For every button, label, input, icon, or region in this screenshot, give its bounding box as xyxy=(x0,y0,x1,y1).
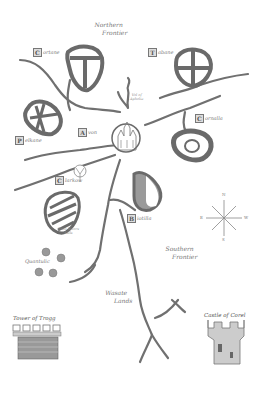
shield-cortane xyxy=(67,47,102,91)
river-delta-1 xyxy=(140,335,152,362)
river-main-south xyxy=(85,160,120,272)
shield-pelkane xyxy=(25,102,61,135)
tower-of-trogg xyxy=(13,325,61,359)
label-castle-of-corel: Castle of Corel xyxy=(204,313,246,319)
initial-cortane: C xyxy=(33,48,42,57)
initial-avon: A xyxy=(78,128,87,137)
initial-clarkow: C xyxy=(55,176,64,185)
river-delta-2 xyxy=(152,335,168,358)
castle-of-corel xyxy=(208,320,244,364)
label-clarkow: C larkow xyxy=(55,176,82,185)
label-tower-of-trogg: Tower of Trogg xyxy=(13,316,56,322)
label-twin-rivers-falls: Twin Rivers Falls xyxy=(58,228,79,235)
label-cortane: C ortane xyxy=(33,48,60,57)
shield-tabane xyxy=(176,50,212,86)
initial-tabane: T xyxy=(148,48,157,57)
shield-cornalla xyxy=(174,131,211,160)
castle-medallion xyxy=(112,122,140,152)
compass-n: N xyxy=(222,193,226,197)
river-south-branch xyxy=(110,200,135,210)
initial-biotilla: B xyxy=(127,214,136,223)
label-southern-frontier: Southern Frontier xyxy=(162,246,197,260)
river-south-main2 xyxy=(120,210,152,335)
initial-cornalla: C xyxy=(195,114,204,123)
label-cornalla: C ornalla xyxy=(195,114,223,123)
compass-w: W xyxy=(244,216,248,220)
label-quantulic: Quantulic xyxy=(25,259,50,264)
label-northern-frontier: Northern Frontier xyxy=(90,22,127,36)
compass-rose xyxy=(206,200,242,236)
fantasy-map xyxy=(0,0,265,394)
label-biotilla: B iotilla xyxy=(127,214,151,223)
label-vale-of-aphelia: Vol of Aphelia xyxy=(130,94,143,101)
label-avon: A von xyxy=(78,128,97,137)
initial-pelkane: P xyxy=(15,136,24,145)
label-tabane: T abane xyxy=(148,48,173,57)
shield-biotilla xyxy=(134,173,161,211)
label-wastelands: Wasate Lands xyxy=(100,290,132,304)
compass-e: E xyxy=(200,216,203,220)
river-north-branch xyxy=(68,80,70,110)
river-aphelia xyxy=(118,78,129,108)
compass-s: S xyxy=(222,238,225,242)
label-pelkane: P elkane xyxy=(15,136,42,145)
